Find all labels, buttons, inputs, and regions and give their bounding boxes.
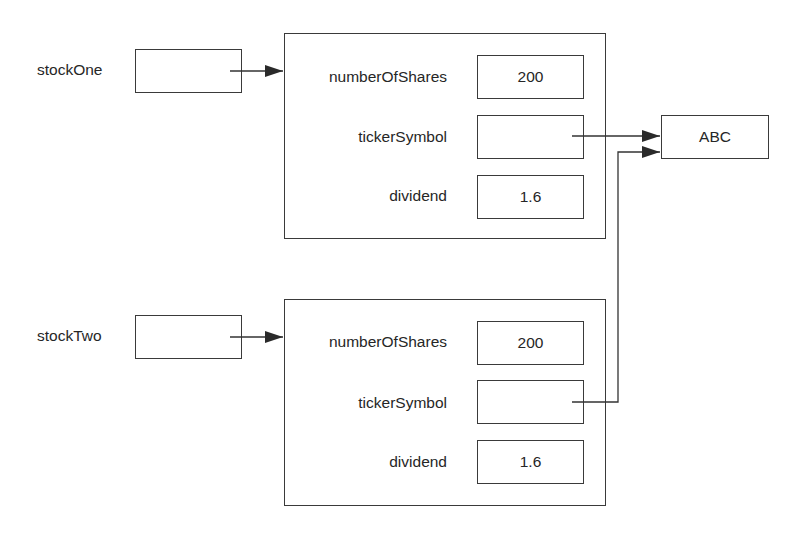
field-label-tickersymbol: tickerSymbol [284, 393, 447, 413]
reference-label-stockone: stockOne [37, 60, 102, 80]
field-value-numberofshares: 200 [477, 55, 584, 99]
field-value-dividend: 1.6 [477, 440, 584, 484]
field-label-numberofshares: numberOfShares [284, 67, 447, 87]
field-value-numberofshares: 200 [477, 321, 584, 365]
field-label-numberofshares: numberOfShares [284, 332, 447, 352]
reference-box-stocktwo [135, 315, 242, 359]
field-value-tickersymbol [477, 380, 584, 424]
field-value-tickersymbol [477, 115, 584, 159]
shared-string-abc: ABC [661, 115, 769, 159]
reference-box-stockone [135, 49, 242, 93]
field-label-dividend: dividend [284, 452, 447, 472]
field-value-dividend: 1.6 [477, 175, 584, 219]
field-label-tickersymbol: tickerSymbol [284, 127, 447, 147]
field-label-dividend: dividend [284, 186, 447, 206]
reference-label-stocktwo: stockTwo [37, 326, 102, 346]
